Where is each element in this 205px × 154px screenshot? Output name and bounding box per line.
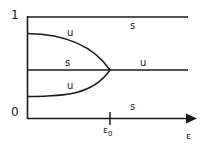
- stability-label-right-unstable: u: [140, 58, 146, 68]
- epsilon-subscript-zero: 0: [108, 130, 112, 138]
- x-axis-arrowhead: [186, 114, 197, 124]
- stability-label-top-stable: s: [130, 21, 135, 31]
- stability-label-lower-unstable: u: [67, 81, 73, 91]
- stability-label-bottom-stable: s: [130, 102, 135, 112]
- x-axis-label-epsilon: ε: [186, 132, 191, 141]
- stability-label-inner-stable: s: [65, 58, 70, 68]
- bifurcation-diagram-figure: 1 0 ε ε0 s u s u u s: [0, 0, 205, 154]
- y-axis-label-zero: 0: [11, 106, 19, 118]
- x-axis-tick-label-epsilon0: ε0: [103, 126, 112, 138]
- stability-label-upper-unstable: u: [67, 28, 73, 38]
- y-axis-label-one: 1: [11, 9, 19, 21]
